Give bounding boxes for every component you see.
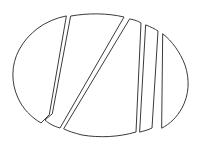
figure-root: Left crescent pieceSecond slice, tall we… — [0, 0, 200, 148]
sliced-ellipse-diagram: Left crescent pieceSecond slice, tall we… — [0, 0, 200, 148]
